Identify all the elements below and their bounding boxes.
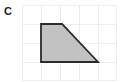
geometry-figure-container: C [0, 0, 122, 82]
figure-canvas [0, 0, 122, 82]
